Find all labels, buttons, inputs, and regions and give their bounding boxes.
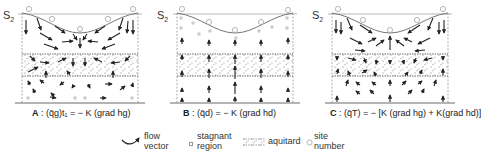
panel-a: S2 <box>0 0 155 125</box>
panel-b: S2 <box>155 0 310 125</box>
aquitard-label: aquitard <box>268 136 301 146</box>
stagnant-region-label: stagnantregion <box>197 131 232 151</box>
flow-diagram-c <box>310 0 475 125</box>
site-number-label: sitenumber <box>314 131 345 151</box>
caption-a: A : (q̄g)t₁ = − K (grad hg) <box>32 108 131 118</box>
panel-c: S2 <box>310 0 465 125</box>
aquitard-icon <box>243 138 265 146</box>
flow-vector-icon <box>120 135 142 147</box>
caption-c: C : (q̄T) = − [K (grad hg) + K(grad hd)] <box>330 108 481 118</box>
caption-b: B : (q̄d) = − K (grad hd) <box>183 108 276 118</box>
legend: flowvector stagnantregion aquitard siten… <box>0 131 475 161</box>
site-number-icon <box>306 139 313 146</box>
stagnant-region-icon <box>189 142 193 146</box>
flow-vector-label: flowvector <box>144 131 169 151</box>
flow-diagram-b <box>155 0 310 125</box>
flow-diagram-a <box>0 0 155 125</box>
